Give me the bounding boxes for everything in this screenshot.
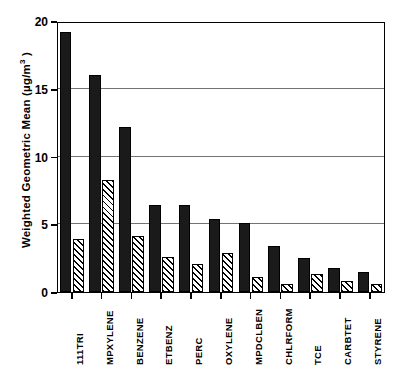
bar bbox=[73, 239, 85, 292]
x-axis-tick-label: CHLRFORM bbox=[284, 308, 294, 365]
x-axis-tick-label: ETBENZ bbox=[164, 325, 174, 365]
bar bbox=[298, 258, 310, 292]
y-axis-title-suffix: ) bbox=[20, 52, 32, 59]
x-axis-tick-label: MPDCLBEN bbox=[254, 309, 264, 365]
y-axis-title-superscript: 3 bbox=[18, 59, 27, 64]
bar bbox=[252, 277, 264, 292]
bar bbox=[328, 268, 340, 292]
x-axis-tick-label: OXYLENE bbox=[224, 318, 234, 366]
x-axis-tick-label: CARBTET bbox=[343, 318, 353, 366]
bar-group bbox=[328, 23, 353, 292]
bar bbox=[132, 236, 144, 292]
bar-group bbox=[119, 23, 144, 292]
bar bbox=[341, 281, 353, 292]
bar bbox=[222, 253, 234, 292]
bar-group bbox=[60, 23, 85, 292]
bar-group bbox=[209, 23, 234, 292]
chart-figure: Weighted Geometric Mean (µg/m3 ) 0510152… bbox=[0, 0, 405, 368]
y-axis-tick-label: 5 bbox=[20, 219, 48, 231]
x-axis-tick-mark bbox=[101, 293, 103, 299]
x-axis-tick-mark bbox=[220, 293, 222, 299]
bar bbox=[239, 223, 251, 292]
bar bbox=[149, 205, 161, 292]
x-axis-tick-label: TCE bbox=[313, 345, 323, 365]
bar bbox=[102, 180, 114, 292]
x-axis-tick-label: MPXYLENE bbox=[105, 310, 115, 365]
bar bbox=[311, 274, 323, 292]
y-axis-tick-label: 10 bbox=[20, 152, 48, 164]
bar bbox=[60, 32, 72, 292]
bar-group bbox=[179, 23, 204, 292]
x-axis-tick-mark bbox=[369, 293, 371, 299]
bar bbox=[119, 127, 131, 292]
bar bbox=[371, 284, 383, 292]
bar bbox=[358, 272, 370, 292]
y-axis-tick-label: 20 bbox=[20, 16, 48, 28]
bar bbox=[192, 264, 204, 292]
bar bbox=[179, 205, 191, 292]
x-axis-tick-mark bbox=[71, 293, 73, 299]
x-axis-tick-mark bbox=[190, 293, 192, 299]
x-axis-tick-mark bbox=[160, 293, 162, 299]
bar-group bbox=[239, 23, 264, 292]
plot-area bbox=[57, 22, 385, 293]
bar bbox=[281, 284, 293, 292]
bar bbox=[209, 219, 221, 292]
x-axis-tick-label: 111TRI bbox=[75, 333, 85, 365]
y-axis-title: Weighted Geometric Mean (µg/m3 ) bbox=[14, 0, 32, 300]
x-axis-tick-label: BENZENE bbox=[135, 318, 145, 366]
x-axis-tick-label: PERC bbox=[194, 337, 204, 365]
bar bbox=[268, 246, 280, 292]
bar-group bbox=[298, 23, 323, 292]
x-axis-tick-mark bbox=[131, 293, 133, 299]
x-axis-tick-label: STYRENE bbox=[373, 318, 383, 365]
bar-group bbox=[89, 23, 114, 292]
x-axis-tick-mark bbox=[309, 293, 311, 299]
bar-group bbox=[358, 23, 383, 292]
x-axis-tick-mark bbox=[250, 293, 252, 299]
bar-group bbox=[149, 23, 174, 292]
bar bbox=[162, 257, 174, 292]
x-axis-tick-mark bbox=[339, 293, 341, 299]
bar-group bbox=[268, 23, 293, 292]
y-axis-tick-label: 0 bbox=[20, 287, 48, 299]
bar bbox=[89, 75, 101, 292]
y-axis-tick-label: 15 bbox=[20, 84, 48, 96]
x-axis-tick-mark bbox=[280, 293, 282, 299]
